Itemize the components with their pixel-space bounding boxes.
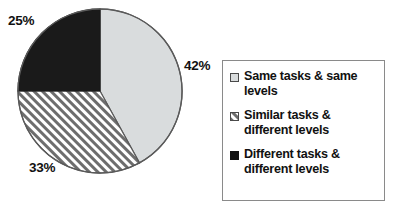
light-gray-swatch-icon: [230, 73, 239, 82]
solid-black-swatch-icon: [230, 151, 239, 160]
legend-label-same-tasks-same-levels: Same tasks & same levels: [244, 69, 380, 99]
chart-legend: Same tasks & same levels Similar tasks &…: [222, 60, 385, 201]
pie-label-different-tasks-different-levels: 25%: [8, 13, 34, 28]
legend-item-similar-tasks-different-levels: Similar tasks & different levels: [230, 108, 380, 138]
legend-label-different-tasks-different-levels: Different tasks & different levels: [244, 147, 380, 177]
legend-item-different-tasks-different-levels: Different tasks & different levels: [230, 147, 380, 177]
pie-label-same-tasks-same-levels: 42%: [184, 58, 210, 73]
legend-label-similar-tasks-different-levels: Similar tasks & different levels: [244, 108, 380, 138]
pie-label-similar-tasks-different-levels: 33%: [29, 160, 55, 175]
legend-item-same-tasks-same-levels: Same tasks & same levels: [230, 69, 380, 99]
cut-off-caption: [2, 208, 302, 218]
diagonal-hatch-swatch-icon: [230, 112, 239, 121]
legend-item-list: Same tasks & same levels Similar tasks &…: [230, 69, 380, 177]
pie-chart-figure: 25% 42% 33% Same tasks & same levels Sim…: [0, 0, 396, 218]
pie-chart-plot-area: 25% 42% 33%: [0, 0, 220, 200]
